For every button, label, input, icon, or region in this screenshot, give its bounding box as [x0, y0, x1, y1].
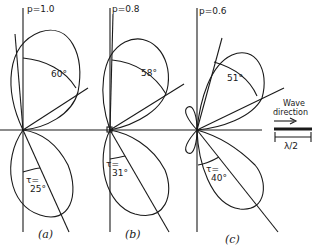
half-wavelength-label: λ/2 [284, 142, 298, 151]
minor-lobe-c1 [186, 107, 197, 130]
tau-value-c: 40° [206, 173, 227, 183]
lower-lobe-a [11, 130, 73, 217]
lobe-edge-line-b2 [110, 84, 184, 130]
p-label-a: p=1.0 [27, 5, 55, 14]
lobe-edge-line-c [197, 38, 222, 130]
tau-value-b: 31° [106, 168, 128, 178]
tau-value-a: 25° [26, 184, 46, 194]
angle-arc-b [112, 60, 166, 94]
upper-angle-c: 51° [227, 73, 243, 83]
p-label-c: p=0.6 [199, 7, 227, 16]
tau-label-a: τ= 25° [26, 176, 46, 195]
legend-title-line2: direction [273, 109, 308, 117]
legend-title-line1: Wave [283, 100, 305, 108]
upper-angle-a: 60° [51, 69, 67, 79]
angle-arc-a [23, 58, 76, 88]
caption-a: (a) [38, 228, 53, 241]
lobe-edge-line-c2 [197, 88, 284, 130]
upper-angle-b: 58° [141, 68, 157, 78]
tau-line-b [110, 130, 169, 232]
radiation-patterns-figure [0, 0, 314, 252]
caption-b: (b) [125, 228, 141, 241]
caption-c: (c) [225, 233, 240, 246]
tau-label-b: τ= 31° [106, 160, 128, 179]
lobe-edge-line-a2 [23, 88, 88, 130]
tau-arc-a [23, 168, 40, 172]
tau-label-c: τ= 40° [206, 165, 227, 184]
p-label-b: p=0.8 [112, 5, 140, 14]
minor-lobe-c2 [186, 130, 197, 153]
